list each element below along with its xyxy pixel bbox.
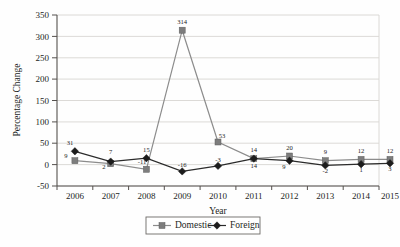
- y-tick-label-50: 50: [40, 138, 50, 148]
- foreign-marker-2009: [179, 168, 186, 175]
- foreign-point-labels: 31 7 15 -16 -3 14 9 -2 1 3: [67, 139, 393, 174]
- domestic-marker-2010: [215, 139, 221, 145]
- foreign-label-2010: -3: [215, 156, 221, 163]
- chart-page: 350 300 250 200 150 100 50 0 -50: [0, 0, 400, 247]
- x-tick-label-2009: 2009: [173, 191, 192, 201]
- y-axis: 350 300 250 200 150 100 50 0 -50: [36, 10, 58, 191]
- x-tick-label-2014: 2014: [352, 191, 371, 201]
- y-tick-label-250: 250: [36, 53, 50, 63]
- series-domestic: [72, 27, 393, 172]
- foreign-label-2014: 1: [359, 166, 362, 173]
- foreign-label-2008: 15: [143, 146, 150, 153]
- domestic-label-2008: -11: [138, 158, 147, 165]
- foreign-label-2013: -2: [323, 167, 329, 174]
- x-axis-title: Year: [209, 206, 227, 216]
- y-tick-label-300: 300: [36, 32, 50, 42]
- domestic-label-2007: 2: [102, 163, 105, 170]
- legend-label-foreign: Foreign: [230, 220, 260, 230]
- series-foreign: [71, 148, 394, 176]
- x-tick-label-2013: 2013: [316, 191, 335, 201]
- chart-legend[interactable]: Domestic Foreign: [146, 217, 260, 234]
- x-tick-label-2008: 2008: [137, 191, 156, 201]
- x-tick-label-2011: 2011: [245, 191, 263, 201]
- x-tick-label-2006: 2006: [66, 191, 85, 201]
- y-tick-label-0: 0: [45, 160, 50, 170]
- domestic-label-2013: 9: [324, 148, 328, 155]
- x-tick-label-2012: 2012: [281, 191, 299, 201]
- domestic-label-2015: 12: [387, 147, 394, 154]
- foreign-label-2009: -16: [178, 161, 187, 168]
- foreign-marker-2006: [71, 148, 78, 155]
- foreign-label-2012: 9: [282, 163, 286, 170]
- foreign-label-2006: 31: [67, 139, 74, 146]
- y-axis-title: Percentage Change: [12, 63, 22, 136]
- foreign-line: [75, 151, 390, 171]
- domestic-label-2009: 314: [177, 18, 188, 25]
- y-tick-label-100: 100: [36, 117, 50, 127]
- x-tick-label-2007: 2007: [102, 191, 121, 201]
- y-tick-label-150: 150: [36, 96, 50, 106]
- x-tick-label-2015: 2015: [381, 191, 400, 201]
- percentage-change-line-chart: 350 300 250 200 150 100 50 0 -50: [0, 0, 400, 247]
- foreign-marker-2010: [214, 162, 221, 169]
- domestic-label-2011: 14: [251, 146, 258, 153]
- x-axis: 2006 2007 2008 2009 2010 2011 2012 2013 …: [57, 186, 400, 201]
- y-tick-label-neg50: -50: [37, 181, 49, 191]
- domestic-label-2006: 9: [64, 152, 68, 159]
- domestic-marker-2006: [72, 158, 78, 164]
- domestic-label-2012: 20: [286, 144, 293, 151]
- domestic-label-2010: 53: [219, 132, 226, 139]
- y-tick-label-200: 200: [36, 74, 50, 84]
- foreign-label-2007: 7: [109, 148, 113, 155]
- domestic-marker-2009: [179, 27, 185, 33]
- domestic-marker-2008: [143, 166, 149, 172]
- legend-square-marker-icon: [159, 223, 165, 229]
- legend-label-domestic: Domestic: [175, 220, 211, 230]
- domestic-label-2014: 12: [358, 147, 365, 154]
- foreign-label-2011: 14: [251, 162, 258, 169]
- domestic-line: [75, 30, 390, 169]
- foreign-label-2015: 3: [388, 165, 392, 172]
- y-tick-label-350: 350: [36, 10, 50, 20]
- chart-svg: 350 300 250 200 150 100 50 0 -50: [0, 0, 400, 247]
- x-tick-label-2010: 2010: [209, 191, 228, 201]
